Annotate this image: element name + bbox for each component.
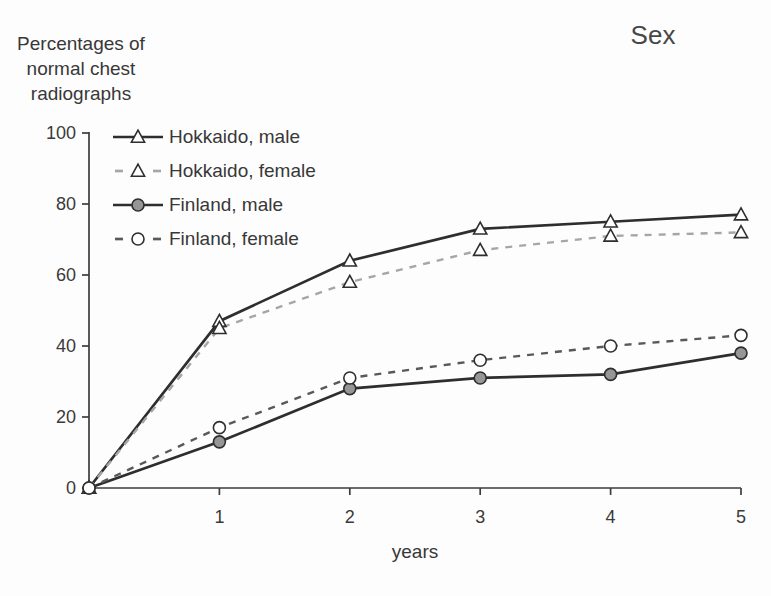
legend-label: Finland, male (169, 194, 283, 216)
y-tick-label: 60 (56, 265, 76, 285)
x-tick-label: 2 (345, 507, 355, 527)
legend-item-finland-female: Finland, female (112, 222, 316, 256)
x-tick-label: 4 (606, 507, 616, 527)
marker-series-1 (474, 243, 487, 255)
marker-series-3 (83, 482, 95, 494)
marker-series-3 (474, 354, 486, 366)
legend-label: Hokkaido, female (169, 160, 316, 182)
legend-marker (132, 199, 144, 211)
legend-item-hokkaido-female: Hokkaido, female (112, 154, 316, 188)
marker-series-3 (213, 422, 225, 434)
legend-sample-finland-male-icon (112, 194, 164, 216)
y-tick-label: 20 (56, 407, 76, 427)
legend-marker (131, 164, 144, 176)
legend-marker (132, 233, 144, 245)
legend-sample-hokkaido-female-icon (112, 160, 164, 182)
marker-series-3 (344, 372, 356, 384)
y-tick-label: 40 (56, 336, 76, 356)
figure: Percentages of normal chest radiographs … (0, 0, 771, 596)
marker-series-1 (343, 275, 356, 287)
y-tick-label: 80 (56, 194, 76, 214)
legend-label: Finland, female (169, 228, 299, 250)
legend: Hokkaido, male Hokkaido, female Finland,… (112, 120, 316, 256)
legend-sample-hokkaido-male-icon (112, 126, 164, 148)
marker-series-2 (735, 347, 747, 359)
series-line-1 (89, 232, 741, 488)
marker-series-2 (213, 436, 225, 448)
y-tick-label: 100 (46, 123, 76, 143)
plot-area: 02040608010012345 (0, 0, 771, 596)
legend-item-hokkaido-male: Hokkaido, male (112, 120, 316, 154)
series-line-3 (89, 335, 741, 488)
marker-series-3 (735, 329, 747, 341)
legend-sample-finland-female-icon (112, 228, 164, 250)
marker-series-2 (605, 368, 617, 380)
x-tick-label: 5 (736, 507, 746, 527)
series-line-2 (89, 353, 741, 488)
marker-series-2 (474, 372, 486, 384)
x-tick-label: 1 (214, 507, 224, 527)
legend-label: Hokkaido, male (169, 126, 300, 148)
marker-series-1 (734, 226, 747, 238)
x-axis-label: years (365, 541, 465, 563)
legend-item-finland-male: Finland, male (112, 188, 316, 222)
marker-series-3 (605, 340, 617, 352)
x-tick-label: 3 (475, 507, 485, 527)
y-tick-label: 0 (66, 478, 76, 498)
marker-series-1 (604, 229, 617, 241)
